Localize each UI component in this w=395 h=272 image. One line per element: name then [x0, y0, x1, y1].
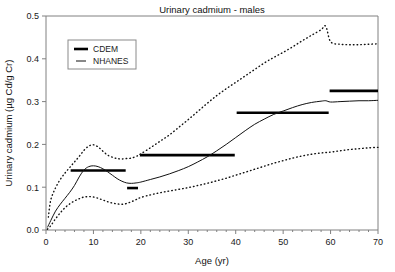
x-tick-label: 70 — [373, 237, 383, 247]
x-tick-label: 10 — [88, 237, 98, 247]
y-tick-label: 0.5 — [26, 11, 39, 21]
chart-legend: CDEM NHANES — [68, 40, 136, 69]
x-tick-label: 50 — [278, 237, 288, 247]
x-axis-title: Age (yr) — [195, 255, 229, 266]
legend-label-cdem: CDEM — [93, 44, 118, 54]
y-tick-label: 0.0 — [26, 225, 39, 235]
chart-title: Urinary cadmium - males — [159, 4, 265, 15]
y-tick-label: 0.3 — [26, 97, 39, 107]
y-tick-label: 0.4 — [26, 54, 39, 64]
chart-container: Urinary cadmium - males 010203040506070 … — [0, 0, 395, 272]
x-tick-label: 40 — [231, 237, 241, 247]
x-tick-label: 60 — [326, 237, 336, 247]
y-axis-title: Urinary cadmium (µg Cd/g Cr) — [3, 60, 14, 187]
legend-label-nhanes: NHANES — [93, 56, 129, 66]
y-tick-label: 0.2 — [26, 140, 39, 150]
x-tick-label: 20 — [136, 237, 146, 247]
x-tick-label: 30 — [183, 237, 193, 247]
x-tick-label: 0 — [43, 237, 48, 247]
y-tick-label: 0.1 — [26, 183, 39, 193]
urinary-cadmium-chart: Urinary cadmium - males 010203040506070 … — [0, 0, 395, 272]
